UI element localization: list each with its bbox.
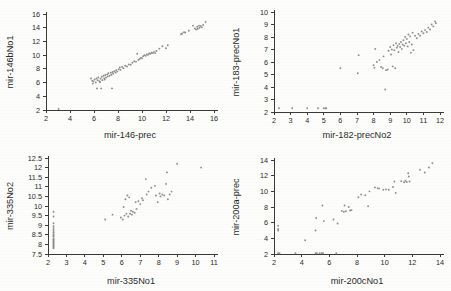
data-point bbox=[348, 206, 350, 208]
data-point bbox=[427, 27, 429, 29]
data-point bbox=[195, 28, 197, 30]
data-point bbox=[142, 199, 144, 201]
data-points bbox=[278, 20, 437, 109]
data-point bbox=[96, 87, 98, 89]
data-point bbox=[167, 198, 169, 200]
data-point bbox=[321, 204, 323, 206]
data-points bbox=[277, 162, 433, 254]
y-tick-label: 6 bbox=[264, 58, 268, 67]
data-point bbox=[110, 74, 112, 76]
data-point bbox=[128, 196, 130, 198]
data-point bbox=[424, 172, 426, 174]
y-tick-label: 14 bbox=[32, 23, 40, 32]
y-tick-label: 10 bbox=[32, 51, 40, 60]
data-point bbox=[393, 44, 395, 46]
data-point bbox=[398, 51, 400, 53]
x-axis-title: mir-146-prec bbox=[104, 130, 156, 140]
x-axis-title: mir-200cNo1 bbox=[331, 276, 384, 286]
data-point bbox=[416, 37, 418, 39]
data-point bbox=[392, 65, 394, 67]
data-point bbox=[136, 208, 138, 210]
data-point bbox=[408, 41, 410, 43]
data-point bbox=[434, 20, 436, 22]
y-tick-label: 3 bbox=[264, 95, 268, 104]
x-tick-label: 12 bbox=[436, 116, 444, 125]
data-point bbox=[119, 69, 121, 71]
y-axis-title: mir-200a-prec bbox=[231, 178, 241, 236]
y-tick-label: 9 bbox=[38, 221, 42, 230]
data-point bbox=[316, 252, 318, 254]
data-point bbox=[196, 26, 198, 28]
data-point bbox=[400, 41, 402, 43]
data-point bbox=[406, 38, 408, 40]
data-point bbox=[53, 222, 55, 224]
data-point bbox=[431, 24, 433, 26]
data-point bbox=[411, 44, 413, 46]
y-tick-label: 7.5 bbox=[32, 250, 42, 259]
y-tick-label: 2 bbox=[264, 250, 268, 259]
data-point bbox=[90, 78, 92, 80]
data-point bbox=[176, 163, 178, 165]
data-point bbox=[107, 75, 109, 77]
x-tick-label: 7 bbox=[138, 258, 142, 267]
data-point bbox=[378, 59, 380, 61]
y-tick-label: 10 bbox=[260, 187, 268, 196]
data-point bbox=[369, 190, 371, 192]
data-point bbox=[407, 45, 409, 47]
x-tick-label: 10 bbox=[191, 258, 199, 267]
data-point bbox=[99, 81, 101, 83]
data-point bbox=[200, 167, 202, 169]
data-point bbox=[165, 47, 167, 49]
x-tick-label: 5 bbox=[322, 116, 326, 125]
data-point bbox=[400, 180, 402, 182]
data-point bbox=[145, 178, 147, 180]
data-point bbox=[134, 212, 136, 214]
data-point bbox=[101, 79, 103, 81]
data-point bbox=[319, 252, 321, 254]
data-point bbox=[118, 68, 120, 70]
data-point bbox=[384, 89, 386, 91]
data-point bbox=[112, 214, 114, 216]
data-points bbox=[58, 21, 207, 110]
data-point bbox=[109, 75, 111, 77]
data-point bbox=[125, 213, 127, 215]
data-point bbox=[403, 45, 405, 47]
data-point bbox=[360, 194, 362, 196]
scatter-plot-bottom-right: 24681012142468101214mir-200cNo1mir-200a-… bbox=[226, 146, 451, 291]
data-point bbox=[115, 72, 117, 74]
data-point bbox=[393, 181, 395, 183]
data-point bbox=[129, 213, 131, 215]
y-tick-label: 6 bbox=[264, 218, 268, 227]
data-point bbox=[357, 196, 359, 198]
data-point bbox=[426, 31, 428, 33]
data-point bbox=[394, 67, 396, 69]
y-tick-label: 11 bbox=[34, 182, 42, 191]
data-point bbox=[294, 252, 296, 254]
data-point bbox=[345, 210, 347, 212]
scatter-plot-top-left: 246810121416246810121416mir-146-precmir-… bbox=[0, 0, 225, 145]
data-point bbox=[376, 61, 378, 63]
data-point bbox=[53, 232, 55, 234]
data-point bbox=[421, 30, 423, 32]
data-point bbox=[431, 162, 433, 164]
data-point bbox=[401, 48, 403, 50]
data-point bbox=[408, 34, 410, 36]
data-point bbox=[136, 53, 138, 55]
data-point bbox=[158, 48, 160, 50]
x-axis-title: mir-182-precNo2 bbox=[323, 130, 392, 140]
data-point bbox=[390, 54, 392, 56]
data-point bbox=[422, 32, 424, 34]
y-tick-label: 10.5 bbox=[28, 192, 42, 201]
data-point bbox=[141, 197, 143, 199]
data-point bbox=[383, 55, 385, 57]
data-point bbox=[339, 67, 341, 69]
data-point bbox=[97, 76, 99, 78]
x-tick-label: 5 bbox=[101, 258, 105, 267]
data-point bbox=[112, 73, 114, 75]
data-point bbox=[337, 223, 339, 225]
data-point bbox=[201, 26, 203, 28]
data-point bbox=[428, 166, 430, 168]
y-tick-label: 12 bbox=[260, 171, 268, 180]
data-point bbox=[202, 24, 204, 26]
data-point bbox=[358, 54, 360, 56]
